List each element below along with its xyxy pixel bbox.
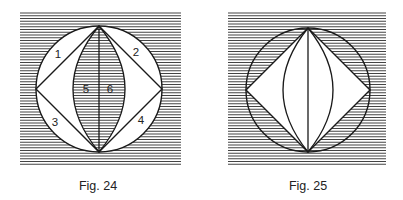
caption-fig-25: Fig. 25: [258, 179, 358, 193]
caption-fig-24: Fig. 24: [48, 179, 148, 193]
region-label-5: 5: [83, 83, 89, 95]
figure-24: 123456: [20, 13, 181, 164]
region-label-3: 3: [52, 116, 58, 128]
region-label-2: 2: [133, 46, 139, 58]
region-label-1: 1: [55, 48, 61, 60]
hatching: [228, 13, 386, 164]
figure-canvas: 123456: [0, 0, 403, 200]
hatching: [20, 13, 181, 164]
region-label-4: 4: [138, 114, 145, 126]
region-label-6: 6: [107, 83, 113, 95]
figure-25: [228, 13, 386, 164]
